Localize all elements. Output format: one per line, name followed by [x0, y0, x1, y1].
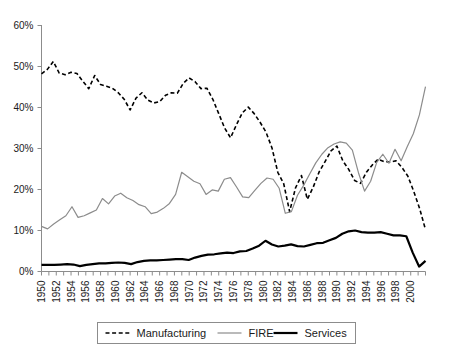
- x-axis-tick-label: 1996: [376, 280, 387, 303]
- y-axis-tick-label: 10%: [13, 225, 33, 236]
- x-axis-tick-label: 1968: [169, 280, 180, 303]
- x-axis-tick-label: 1956: [80, 280, 91, 303]
- x-axis-tick-label: 1970: [184, 280, 195, 303]
- x-axis-tick-label: 1994: [361, 280, 372, 303]
- x-axis-tick-label: 1964: [139, 280, 150, 303]
- y-axis: 0%10%20%30%40%50%60%: [13, 20, 41, 277]
- x-axis-tick-label: 1972: [198, 280, 209, 303]
- x-axis-tick-label: 1990: [331, 280, 342, 303]
- x-axis-tick-label: 1978: [243, 280, 254, 303]
- series-line-fire: [42, 87, 426, 229]
- x-axis-tick-label: 1960: [110, 280, 121, 303]
- x-axis-tick-label: 1992: [346, 280, 357, 303]
- series-line-services: [42, 231, 426, 267]
- x-axis-tick-label: 1954: [66, 280, 77, 303]
- chart-legend: ManufacturingFIREServices: [98, 323, 356, 344]
- x-axis-tick-label: 1966: [154, 280, 165, 303]
- x-axis-tick-label: 1984: [287, 280, 298, 303]
- x-axis-tick-label: 1988: [317, 280, 328, 303]
- plot-area: 0%10%20%30%40%50%60% 1950195219541956195…: [13, 20, 425, 344]
- x-axis-tick-label: 1974: [213, 280, 224, 303]
- chart-container: 0%10%20%30%40%50%60% 1950195219541956195…: [0, 0, 452, 352]
- x-axis-tick-label: 1950: [36, 280, 47, 303]
- x-axis-tick-label: 1982: [272, 280, 283, 303]
- legend-label-fire: FIRE: [249, 327, 274, 339]
- y-axis-tick-label: 0%: [19, 266, 34, 277]
- legend-label-manufacturing: Manufacturing: [137, 327, 207, 339]
- x-axis-tick-label: 2000: [405, 280, 416, 303]
- line-chart: 0%10%20%30%40%50%60% 1950195219541956195…: [0, 0, 452, 352]
- y-axis-tick-label: 30%: [13, 143, 33, 154]
- x-axis-tick-label: 1998: [390, 280, 401, 303]
- y-axis-tick-label: 20%: [13, 184, 33, 195]
- data-series-group: [42, 62, 426, 267]
- x-axis: 1950195219541956195819601962196419661968…: [36, 272, 426, 303]
- x-axis-tick-label: 1976: [228, 280, 239, 303]
- legend-label-services: Services: [305, 327, 348, 339]
- x-axis-tick-label: 1958: [95, 280, 106, 303]
- x-axis-tick-label: 1952: [51, 280, 62, 303]
- y-axis-tick-label: 40%: [13, 102, 33, 113]
- x-axis-tick-label: 1986: [302, 280, 313, 303]
- y-axis-tick-label: 60%: [13, 20, 33, 31]
- x-axis-tick-label: 1980: [258, 280, 269, 303]
- x-axis-tick-label: 1962: [125, 280, 136, 303]
- y-axis-tick-label: 50%: [13, 61, 33, 72]
